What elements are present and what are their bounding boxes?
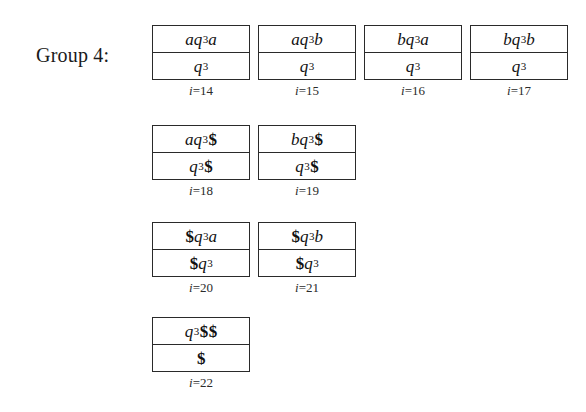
tape-box-top-cell: aq3a	[153, 26, 249, 53]
tape-box: bq3a q3	[364, 25, 462, 80]
group-label: Group 4:	[36, 43, 109, 67]
tape-box: aq3a q3	[152, 25, 250, 80]
tape-cell-unit: aq3$ q3$ i=18	[152, 125, 250, 198]
tape-box-bottom-cell: q3	[259, 53, 355, 79]
tape-index-value: 16	[412, 83, 425, 98]
tape-index-caption: i=15	[258, 84, 356, 98]
tape-index-caption: i=16	[364, 84, 462, 98]
tape-index-caption: i=18	[152, 184, 250, 198]
tape-cell-unit: bq3a q3 i=16	[364, 25, 462, 98]
tape-index-caption: i=19	[258, 184, 356, 198]
tape-index-caption: i=20	[152, 281, 250, 295]
tape-box-bottom-cell: q3$	[153, 153, 249, 179]
tape-box-top-cell: aq3b	[259, 26, 355, 53]
tape-index-caption: i=14	[152, 84, 250, 98]
tape-box-bottom-cell: q3$	[259, 153, 355, 179]
tape-box-top-cell: bq3b	[471, 26, 567, 53]
figure-canvas: Group 4: aq3a q3 i=14 aq3b q3	[0, 0, 586, 412]
tape-index-value: 15	[306, 83, 319, 98]
tape-box: $q3a $q3	[152, 222, 250, 277]
tape-box-bottom-cell: $	[153, 345, 249, 371]
tape-index-value: 14	[200, 83, 213, 98]
tape-cell-unit: aq3b q3 i=15	[258, 25, 356, 98]
tape-index-value: 20	[200, 280, 213, 295]
tape-box: q3$$ $	[152, 317, 250, 372]
tape-box: bq3$ q3$	[258, 125, 356, 180]
tape-index-value: 19	[306, 183, 319, 198]
tape-box: aq3$ q3$	[152, 125, 250, 180]
tape-index-caption: i=22	[152, 376, 250, 390]
tape-box-bottom-cell: $q3	[153, 250, 249, 276]
tape-box: bq3b q3	[470, 25, 568, 80]
tape-box: aq3b q3	[258, 25, 356, 80]
tape-cell-unit: $q3a $q3 i=20	[152, 222, 250, 295]
tape-box-top-cell: q3$$	[153, 318, 249, 345]
tape-index-value: 22	[200, 375, 213, 390]
tape-cell-unit: bq3$ q3$ i=19	[258, 125, 356, 198]
tape-index-value: 17	[518, 83, 531, 98]
tape-cell-unit: bq3b q3 i=17	[470, 25, 568, 98]
tape-box-top-cell: aq3$	[153, 126, 249, 153]
tape-box-bottom-cell: q3	[471, 53, 567, 79]
tape-box-bottom-cell: q3	[365, 53, 461, 79]
tape-index-caption: i=17	[470, 84, 568, 98]
tape-index-value: 21	[306, 280, 319, 295]
tape-box-top-cell: $q3a	[153, 223, 249, 250]
tape-cell-unit: $q3b $q3 i=21	[258, 222, 356, 295]
tape-box: $q3b $q3	[258, 222, 356, 277]
tape-box-bottom-cell: q3	[153, 53, 249, 79]
tape-box-top-cell: bq3a	[365, 26, 461, 53]
tape-index-caption: i=21	[258, 281, 356, 295]
tape-index-value: 18	[200, 183, 213, 198]
tape-box-top-cell: bq3$	[259, 126, 355, 153]
tape-box-bottom-cell: $q3	[259, 250, 355, 276]
tape-cell-unit: aq3a q3 i=14	[152, 25, 250, 98]
tape-cell-unit: q3$$ $ i=22	[152, 317, 250, 390]
tape-box-top-cell: $q3b	[259, 223, 355, 250]
